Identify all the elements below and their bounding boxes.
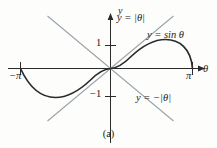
y-tick-label-negative-one: −1 [90, 89, 101, 100]
figure-container: y θ 1 −1 −π π y = |θ| y = sin θ y = −|θ|… [0, 0, 217, 148]
x-tick-label-negative-pi: −π [9, 71, 21, 82]
y-axis-arrowhead [108, 13, 114, 20]
y-tick-label-one: 1 [96, 38, 101, 49]
annotation-sin-theta: y = sin θ [147, 30, 184, 41]
x-axis-label: θ [203, 64, 208, 75]
sine-curve-right-lobe [111, 40, 193, 69]
figure-caption: (a) [0, 128, 217, 139]
x-tick-label-positive-pi: π [186, 71, 191, 82]
annotation-neg-abs-theta: y = −|θ| [136, 93, 171, 104]
y-axis-group [108, 13, 114, 143]
annotation-abs-theta: y = |θ| [117, 13, 145, 24]
plot-svg [0, 0, 217, 148]
